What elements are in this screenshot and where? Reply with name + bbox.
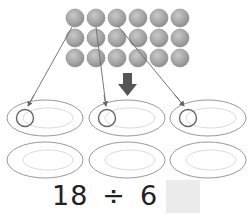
ball — [150, 29, 168, 47]
ball — [87, 9, 105, 27]
down-arrow-icon — [118, 73, 137, 96]
ball-row-3 — [66, 49, 189, 67]
ball — [150, 9, 168, 27]
ball — [171, 29, 189, 47]
ball — [66, 49, 84, 67]
dividend: 18 — [52, 180, 88, 211]
plate-row-1 — [7, 100, 246, 136]
ball — [150, 49, 168, 67]
guide-arrow-1 — [28, 27, 72, 106]
ball — [87, 29, 105, 47]
plate — [89, 100, 165, 136]
plate — [89, 142, 165, 178]
ball — [66, 29, 84, 47]
ball — [66, 9, 84, 27]
ball — [108, 9, 126, 27]
divide-operator: ÷ — [102, 180, 126, 211]
ball — [108, 29, 126, 47]
ball — [87, 49, 105, 67]
plate-row-2 — [7, 142, 246, 178]
ball-row-1 — [66, 9, 189, 27]
plate — [170, 142, 246, 178]
ball — [171, 49, 189, 67]
ball — [171, 9, 189, 27]
plate — [7, 142, 83, 178]
plate — [7, 100, 83, 136]
answer-box[interactable] — [166, 180, 200, 213]
ball — [129, 9, 147, 27]
plate — [170, 100, 246, 136]
ball — [108, 49, 126, 67]
divisor: 6 — [140, 180, 158, 211]
ball — [129, 29, 147, 47]
